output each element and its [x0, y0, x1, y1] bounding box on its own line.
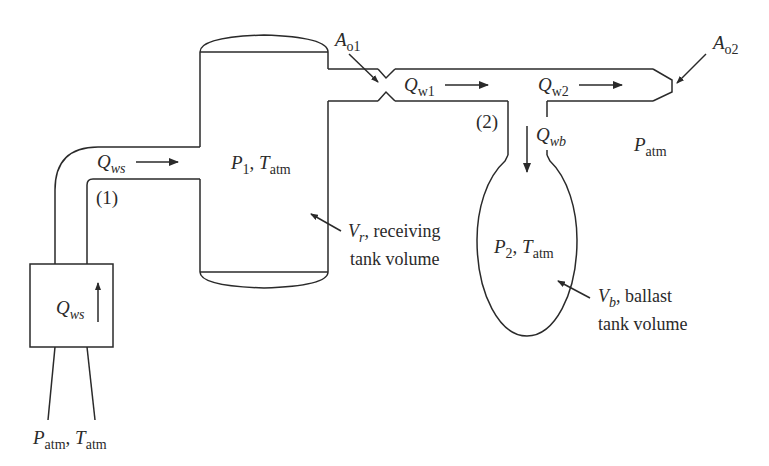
qws-pipe-sub: ws	[111, 161, 126, 176]
inlet-leg-left	[48, 347, 55, 420]
p2-symbol: P	[494, 236, 506, 257]
patm-symbol: P	[634, 134, 646, 155]
vb-sub: b	[609, 295, 616, 310]
inlet-t-sub: atm	[86, 437, 107, 452]
p1-symbol: P	[231, 152, 243, 173]
p1-sub: 1	[243, 162, 250, 177]
inlet-p-sub: atm	[45, 437, 66, 452]
vr-text2: tank volume	[348, 246, 440, 272]
label-vr: Vr, receiving tank volume	[348, 218, 440, 272]
vr-symbol: V	[348, 221, 359, 241]
label-ao1: Ao1	[335, 30, 361, 49]
qws-box-sub: ws	[70, 307, 85, 322]
vr-sub: r	[359, 230, 364, 245]
inlet-sep: ,	[66, 427, 71, 448]
t2-symbol: T	[522, 236, 533, 257]
vb-symbol: V	[598, 286, 609, 306]
qwb-sub: wb	[550, 134, 566, 149]
supply-pipe	[55, 147, 200, 264]
label-qw1: Qw1	[404, 75, 435, 94]
t1-symbol: T	[259, 152, 270, 173]
qwb-symbol: Q	[536, 124, 550, 145]
inlet-p-symbol: P	[33, 427, 45, 448]
label-node1: (1)	[96, 188, 118, 207]
qw2-symbol: Q	[538, 74, 552, 95]
vb-text2: tank volume	[598, 311, 687, 337]
inlet-t-symbol: T	[75, 427, 86, 448]
pointer-vr	[311, 214, 341, 231]
qw1-symbol: Q	[404, 74, 418, 95]
qw1-sub: w1	[418, 84, 435, 99]
p2-sub: 2	[506, 246, 513, 261]
ao2-symbol: A	[713, 32, 725, 53]
label-patm-ambient: Patm	[634, 135, 667, 154]
label-node2: (2)	[476, 112, 498, 131]
qws-box-symbol: Q	[56, 297, 70, 318]
vr-text: , receiving	[364, 221, 440, 241]
label-p1-tatm: P1, Tatm	[231, 153, 291, 172]
qw2-sub: w2	[552, 84, 569, 99]
orifice-o1	[378, 69, 395, 101]
qws-pipe-symbol: Q	[97, 151, 111, 172]
ao1-symbol: A	[335, 29, 347, 50]
label-vb: Vb, ballast tank volume	[598, 283, 687, 337]
t1-sub: atm	[270, 162, 291, 177]
inlet-leg-right	[87, 347, 95, 420]
label-qw2: Qw2	[538, 75, 569, 94]
ao2-sub: o2	[725, 42, 739, 57]
patm-sub: atm	[646, 144, 667, 159]
label-qws-pipe: Qws	[97, 152, 126, 171]
label-inlet-conditions: Patm, Tatm	[33, 428, 107, 447]
ao1-sub: o1	[347, 39, 361, 54]
t2-sub: atm	[533, 246, 554, 261]
pointer-o2	[677, 54, 706, 83]
pointer-o1	[349, 54, 378, 82]
label-p2-tatm: P2, Tatm	[494, 237, 554, 256]
label-ao2: Ao2	[713, 33, 739, 52]
pointer-vb	[558, 281, 590, 298]
label-qws-compressor: Qws	[56, 298, 85, 317]
vb-text: , ballast	[616, 286, 672, 306]
label-qwb: Qwb	[536, 125, 566, 144]
